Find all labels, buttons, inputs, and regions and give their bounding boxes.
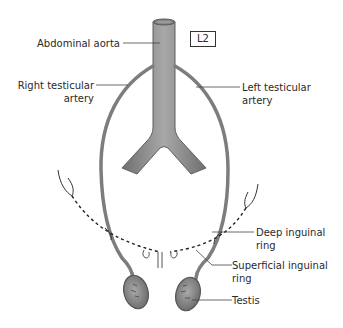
left-testis — [172, 274, 204, 313]
label-right-testicular-artery-line2: artery — [0, 92, 94, 105]
label-superficial-inguinal-ring-line1: Superficial inguinal — [232, 259, 328, 272]
vertebral-level-box: L2 — [190, 31, 216, 47]
label-left-testicular-artery-line1: Left testicular — [242, 81, 311, 94]
right-testicular-artery — [101, 66, 153, 298]
superficial-rings — [143, 250, 177, 268]
label-deep-inguinal-ring-line2: ring — [256, 239, 276, 252]
label-abdominal-aorta: Abdominal aorta — [20, 37, 120, 50]
label-superficial-inguinal-ring-line2: ring — [232, 272, 252, 285]
label-deep-inguinal-ring-line1: Deep inguinal — [256, 226, 325, 239]
left-testicular-artery — [175, 66, 228, 298]
label-testis: Testis — [232, 294, 260, 307]
label-right-testicular-artery-line1: Right testicular — [0, 79, 94, 92]
label-left-testicular-artery-line2: artery — [242, 94, 272, 107]
right-testis — [120, 272, 152, 311]
inguinal-ligament-left — [170, 208, 246, 252]
